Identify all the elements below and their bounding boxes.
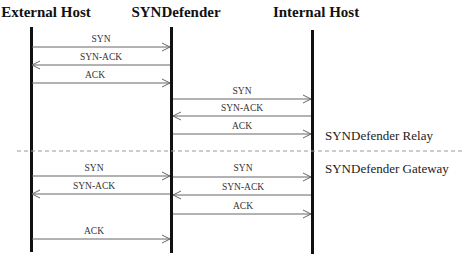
msg-label: SYN [232,86,251,96]
msg-label: SYN [233,163,252,173]
msg-label: ACK [85,70,105,80]
msg-label: ACK [232,121,252,131]
msg-label: SYN [91,34,110,44]
phase-label-gateway: SYNDefender Gateway [325,161,449,177]
msg-label: SYN-ACK [221,103,263,113]
msg-label: SYN-ACK [73,181,115,191]
msg-label: SYN [84,163,103,173]
msg-label: SYN-ACK [80,52,122,62]
msg-label: ACK [233,201,253,211]
msg-label: ACK [84,226,104,236]
phase-label-relay: SYNDefender Relay [325,128,433,144]
msg-label: SYN-ACK [222,182,264,192]
